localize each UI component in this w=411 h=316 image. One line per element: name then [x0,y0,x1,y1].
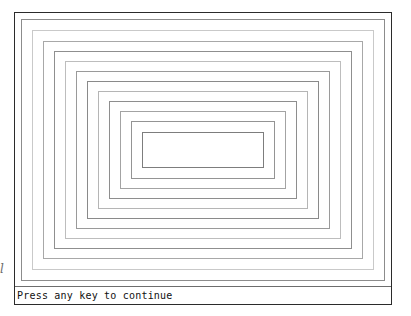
clipped-edge-glyph: l [0,262,7,276]
rectangle-drawing-area [15,13,391,304]
demo-window: Press any key to continue [14,12,392,305]
press-any-key-prompt: Press any key to continue [15,290,173,302]
nested-rectangle [142,132,264,168]
screen-canvas: Press any key to continue l [0,0,411,316]
status-bar[interactable]: Press any key to continue [15,286,391,304]
